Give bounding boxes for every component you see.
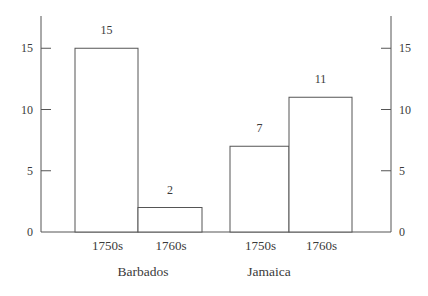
bar-value-label: 2 <box>167 183 173 197</box>
right-tick-label: 5 <box>399 164 405 178</box>
bar-chart: 051015 051015 152711 1750s1760sBarbados1… <box>0 0 428 296</box>
right-tick-label: 0 <box>399 225 405 239</box>
bar-barbados-1760s <box>138 208 202 233</box>
bars: 152711 <box>75 23 352 232</box>
right-tick-label: 10 <box>399 103 411 117</box>
x-category-label: 1750s <box>245 238 276 253</box>
x-category-label: 1760s <box>155 238 186 253</box>
group-label-barbados: Barbados <box>118 264 169 279</box>
left-y-axis: 051015 <box>21 16 51 239</box>
left-tick-label: 10 <box>21 103 33 117</box>
right-y-axis: 051015 <box>381 16 411 239</box>
left-tick-label: 0 <box>27 225 33 239</box>
x-category-label: 1760s <box>306 238 337 253</box>
bar-value-label: 11 <box>315 72 327 86</box>
x-category-label: 1750s <box>92 238 123 253</box>
bar-value-label: 15 <box>101 23 113 37</box>
bar-jamaica-1760s <box>289 97 352 232</box>
category-labels: 1750s1760sBarbados1750s1760sJamaica <box>92 238 337 279</box>
bar-barbados-1750s <box>75 48 138 232</box>
group-label-jamaica: Jamaica <box>247 264 290 279</box>
bar-value-label: 7 <box>257 121 263 135</box>
bar-jamaica-1750s <box>230 146 289 232</box>
left-tick-label: 15 <box>21 41 33 55</box>
left-tick-label: 5 <box>27 164 33 178</box>
right-tick-label: 15 <box>399 41 411 55</box>
